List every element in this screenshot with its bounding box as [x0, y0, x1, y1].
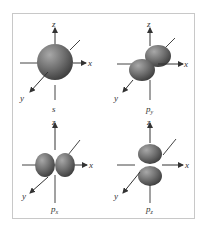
panel-s: z x y s	[19, 19, 92, 114]
z-axis-label: z	[51, 19, 56, 29]
x-axis-label: x	[184, 160, 189, 170]
y-axis-label: y	[113, 191, 118, 201]
pz-lobe-top	[138, 144, 162, 164]
s-orbital-sphere	[37, 44, 73, 80]
py-lobe-front	[129, 59, 155, 81]
orbital-label-pz: pz	[145, 204, 154, 215]
orbital-diagram: z x y s z x y py z x y px	[0, 0, 209, 233]
y-axis-label: y	[19, 93, 24, 103]
x-axis-label: x	[88, 160, 93, 170]
x-axis-label: x	[183, 59, 188, 69]
panel-pz: z x y pz	[113, 117, 189, 215]
orbital-label-py: py	[145, 104, 154, 115]
px-lobe-right	[55, 153, 75, 177]
orbital-label-px: px	[50, 204, 59, 215]
y-axis-label: y	[113, 93, 118, 103]
z-axis-label: z	[51, 117, 56, 127]
y-axis-label: y	[21, 191, 26, 201]
orbital-label-s: s	[52, 104, 56, 114]
z-axis-label: z	[146, 19, 151, 29]
z-axis-label: z	[146, 117, 151, 127]
pz-lobe-bottom	[138, 166, 162, 186]
panel-py: z x y py	[113, 19, 188, 115]
px-lobe-left	[35, 153, 55, 177]
x-axis-label: x	[87, 58, 92, 68]
panel-px: z x y px	[21, 117, 93, 215]
